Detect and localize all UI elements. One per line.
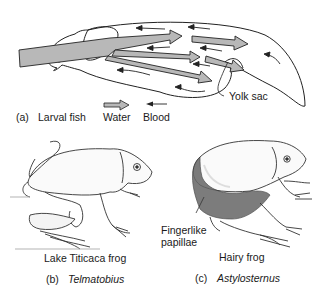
panel-a-letter: (a) — [16, 111, 29, 123]
papillae-label-line1: Fingerlike — [161, 224, 207, 236]
panel-a-label: Larval fish — [38, 111, 86, 123]
blood-legend-icon — [146, 102, 167, 107]
papillae-label-line2: papillae — [161, 236, 197, 248]
panel-c-letter: (c) — [195, 272, 207, 284]
water-legend-label: Water — [103, 111, 131, 123]
blood-legend-label: Blood — [143, 111, 170, 123]
lake-titicaca-frog-illustration — [0, 137, 160, 252]
panel-b-letter: (b) — [46, 273, 59, 285]
panel-c-common-name: Hairy frog — [219, 251, 265, 263]
water-inflow-band — [19, 30, 182, 67]
yolk-sac-label: Yolk sac — [229, 90, 268, 102]
panel-c-genus: Astylosternus — [217, 272, 280, 284]
panel-b-common-name: Lake Titicaca frog — [44, 252, 126, 264]
panel-b-genus: Telmatobius — [68, 273, 124, 285]
water-legend-icon — [104, 100, 129, 110]
